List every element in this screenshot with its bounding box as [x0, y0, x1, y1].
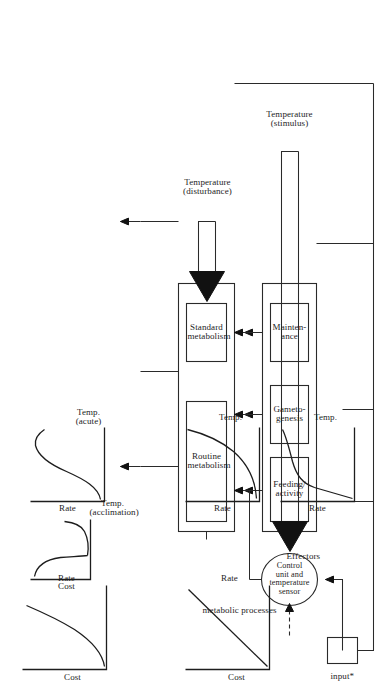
graph-axes-acute	[30, 427, 104, 501]
graph-rate-vs-temp-acute	[30, 427, 104, 501]
graph-curve-cost-rate-accel	[26, 605, 104, 666]
graph-cost-vs-rate-linear	[185, 585, 269, 669]
axis-label-threshold-x: Temp.	[308, 412, 342, 421]
axis-label-cost-rate-accel-x: Rate	[51, 573, 81, 582]
graph-curve-acute	[35, 429, 100, 499]
axis-label-decay-y: Rate	[207, 503, 237, 512]
axis-label-acclimation-x: Temp. (acclimation)	[89, 499, 135, 518]
graph-cost-vs-rate-accelerating	[22, 585, 106, 669]
label-input: input*	[330, 671, 354, 680]
label-metabolic-processes: metabolic processes	[202, 605, 276, 614]
label-temperature-disturbance: Temperature (disturbance)	[174, 178, 240, 197]
axis-label-cost-rate-accel-y: Cost	[57, 672, 87, 681]
node-control-unit: Control unit and temperature sensor	[262, 562, 316, 596]
graph-axes-cost-rate-accel	[22, 585, 106, 669]
node-gametogenesis: Gameto- genesis	[270, 405, 308, 424]
graph-cost-vs-temp-acclimation	[30, 519, 90, 579]
figure-canvas: metabolic processes Effectors input* Con…	[0, 0, 380, 691]
graph-curve-acclimation	[34, 521, 88, 576]
axis-label-acute-x: Temp. (acute)	[68, 408, 108, 427]
axis-label-cost-rate-linear-x: Rate	[214, 573, 244, 582]
axis-label-cost-rate-linear-y: Cost	[221, 672, 251, 681]
graph-axes-acclimation	[30, 519, 90, 579]
node-maintenance: Mainten- ance	[270, 323, 308, 342]
node-feeding-activity: Feeding/ activity	[270, 480, 308, 499]
label-temperature-stimulus: Temperature (stimulus)	[259, 110, 319, 129]
graph-curve-cost-rate-linear	[188, 589, 267, 666]
axis-label-threshold-y: Rate	[302, 503, 332, 512]
axis-label-acute-y: Rate	[52, 503, 82, 512]
node-routine-metabolism: Routine metabolism	[187, 452, 225, 471]
node-standard-metabolism: Standard metabolism	[187, 323, 225, 342]
axis-label-decay-x: Temp.	[213, 412, 247, 421]
label-effectors: Effectors	[286, 551, 320, 560]
